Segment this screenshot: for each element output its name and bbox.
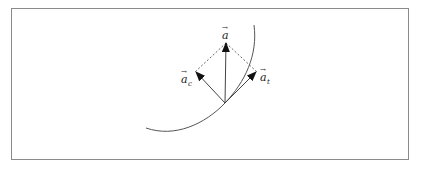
svg-text:a: a	[260, 71, 267, 84]
trajectory-curve	[146, 25, 255, 131]
dashed-line-left	[195, 43, 226, 72]
diagram-canvas: → a → a c → a t	[0, 0, 423, 170]
total-acceleration-arrow	[225, 43, 226, 103]
svg-text:a: a	[222, 29, 229, 42]
centripetal-acceleration-arrow	[196, 72, 225, 103]
svg-text:c: c	[188, 80, 192, 88]
label-total-acceleration: → a	[222, 24, 229, 42]
tangential-acceleration-arrow	[225, 72, 256, 103]
label-tangential-acceleration: → a t	[260, 66, 270, 86]
diagram-border	[12, 9, 409, 160]
svg-text:t: t	[267, 78, 270, 86]
svg-text:a: a	[181, 73, 188, 86]
label-centripetal-acceleration: → a c	[181, 68, 192, 88]
